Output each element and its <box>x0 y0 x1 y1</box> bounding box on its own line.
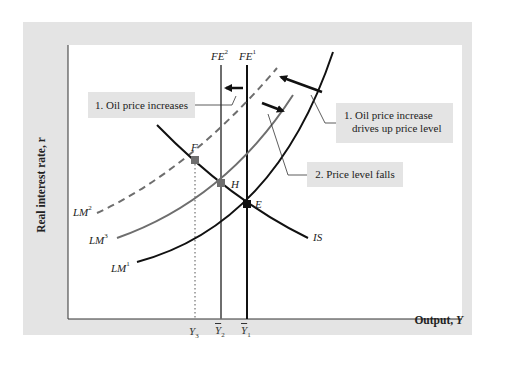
lm3-curve <box>117 95 293 238</box>
y-axis-label: Real interest rate, r <box>30 60 52 310</box>
point-h <box>217 179 225 187</box>
lm1-to-lm2-arrow <box>281 77 322 92</box>
lm1-curve <box>137 52 333 262</box>
lm3-label: LM3 <box>89 234 108 246</box>
point-h-label: H <box>231 178 239 190</box>
leader-oil-price-increases <box>195 96 236 105</box>
lm2-curve <box>97 68 277 213</box>
point-f-label: F <box>191 141 198 153</box>
is-label: IS <box>313 231 322 243</box>
point-e-label: E <box>255 198 262 210</box>
lm2-label: LM2 <box>73 206 92 218</box>
lm2-to-lm3-arrow <box>262 103 283 111</box>
xtick-y2-bar: Y2 <box>215 324 225 339</box>
x-axis-label: Output, Y <box>414 314 463 326</box>
point-e <box>243 200 251 208</box>
xtick-y1-bar: Y1 <box>241 324 251 339</box>
fe1-label: FE1 <box>239 50 256 62</box>
lm1-label: LM1 <box>111 262 130 274</box>
xtick-y3: Y3 <box>189 325 199 340</box>
fe2-label: FE2 <box>211 50 228 62</box>
point-f <box>191 156 199 164</box>
